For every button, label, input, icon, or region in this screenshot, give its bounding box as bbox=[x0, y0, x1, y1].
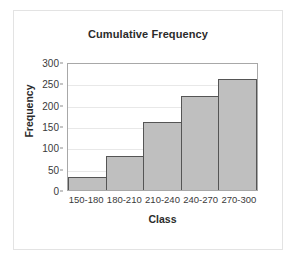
x-axis-tick-label: 270-300 bbox=[220, 194, 258, 205]
bar bbox=[143, 122, 182, 190]
bar bbox=[218, 79, 257, 190]
chart-title: Cumulative Frequency bbox=[14, 28, 282, 40]
y-axis-tick-mark bbox=[60, 105, 63, 106]
y-axis-tick-label: 250 bbox=[42, 79, 59, 90]
bar bbox=[181, 96, 220, 190]
bar bbox=[68, 177, 107, 190]
x-axis-title: Class bbox=[67, 213, 258, 225]
y-axis-tick-mark bbox=[60, 84, 63, 85]
y-axis-tick-mark bbox=[60, 63, 63, 64]
x-axis-tick-label: 210-240 bbox=[143, 194, 181, 205]
y-axis-tick-mark bbox=[60, 191, 63, 192]
chart-frame: Cumulative Frequency Frequency 050100150… bbox=[13, 10, 283, 250]
y-axis-tick-label: 150 bbox=[42, 122, 59, 133]
y-axis-tick-label: 100 bbox=[42, 143, 59, 154]
x-axis-tick-label: 180-210 bbox=[105, 194, 143, 205]
x-axis-tick-label: 150-180 bbox=[67, 194, 105, 205]
y-axis-tick-labels: 050100150200250300 bbox=[14, 63, 63, 191]
plot-area bbox=[67, 63, 258, 191]
y-axis-tick-mark bbox=[60, 127, 63, 128]
y-axis-tick-mark bbox=[60, 169, 63, 170]
x-axis-tick-labels: 150-180180-210210-240240-270270-300 bbox=[67, 194, 258, 205]
y-axis-tick-label: 50 bbox=[48, 164, 59, 175]
bar bbox=[106, 156, 145, 190]
x-axis-tick-label: 240-270 bbox=[182, 194, 220, 205]
y-axis-tick-label: 300 bbox=[42, 58, 59, 69]
y-axis-tick-label: 200 bbox=[42, 100, 59, 111]
y-axis-tick-label: 0 bbox=[53, 186, 59, 197]
y-axis-tick-mark bbox=[60, 148, 63, 149]
bar-series bbox=[68, 64, 257, 190]
